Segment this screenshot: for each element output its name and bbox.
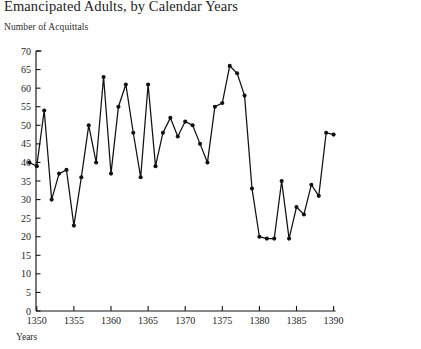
- data-point: [168, 116, 172, 120]
- line-chart-svg: 0510152025303540455055606570 13501355136…: [0, 0, 421, 349]
- x-axis-title: Years: [16, 332, 37, 342]
- data-point: [124, 82, 128, 86]
- series-polyline: [29, 66, 333, 239]
- data-point: [205, 160, 209, 164]
- data-point: [191, 123, 195, 127]
- data-point: [317, 194, 321, 198]
- y-tick-label: 20: [21, 231, 31, 242]
- data-point: [94, 160, 98, 164]
- data-point: [87, 123, 91, 127]
- chart-page: Emancipated Adults, by Calendar Years Nu…: [0, 0, 421, 349]
- data-series: [27, 64, 335, 241]
- y-tick-label: 65: [21, 64, 31, 75]
- y-tick-label: 45: [21, 138, 31, 149]
- data-point: [27, 160, 31, 164]
- y-tick-label: 10: [21, 268, 31, 279]
- y-tick-label: 70: [21, 46, 31, 57]
- data-point: [302, 212, 306, 216]
- data-point: [42, 108, 46, 112]
- data-point: [139, 175, 143, 179]
- x-tick-label: 1355: [64, 315, 84, 326]
- x-tick-label: 1385: [287, 315, 307, 326]
- data-point: [280, 179, 284, 183]
- data-point: [161, 131, 165, 135]
- y-tick-label: 50: [21, 120, 31, 131]
- data-point: [183, 120, 187, 124]
- x-tick-label: 1360: [101, 315, 121, 326]
- data-point: [146, 82, 150, 86]
- y-tick-label: 60: [21, 83, 31, 94]
- data-point: [228, 64, 232, 68]
- data-point: [213, 105, 217, 109]
- data-point: [243, 94, 247, 98]
- data-point: [153, 164, 157, 168]
- plot-area: 0510152025303540455055606570 13501355136…: [0, 0, 421, 349]
- x-tick-label: 1370: [175, 315, 195, 326]
- data-point: [131, 131, 135, 135]
- data-point: [287, 237, 291, 241]
- x-tick-label: 1365: [138, 315, 158, 326]
- y-tick-label: 5: [26, 287, 31, 298]
- data-point: [102, 75, 106, 79]
- x-tick-label: 1375: [212, 315, 232, 326]
- data-point: [309, 183, 313, 187]
- data-point: [235, 71, 239, 75]
- data-point: [257, 235, 261, 239]
- data-point: [272, 237, 276, 241]
- y-tick-label: 30: [21, 194, 31, 205]
- data-point: [109, 172, 113, 176]
- data-point: [176, 134, 180, 138]
- data-point: [116, 105, 120, 109]
- y-tick-label: 55: [21, 101, 31, 112]
- data-point: [220, 101, 224, 105]
- y-tick-label: 35: [21, 176, 31, 187]
- data-point: [198, 142, 202, 146]
- y-tick-label: 25: [21, 213, 31, 224]
- data-point: [57, 172, 61, 176]
- data-point: [50, 198, 54, 202]
- data-point: [265, 237, 269, 241]
- x-tick-label: 1350: [27, 315, 47, 326]
- data-point: [64, 168, 68, 172]
- data-point: [324, 131, 328, 135]
- data-point: [332, 133, 336, 137]
- y-tick-label: 15: [21, 250, 31, 261]
- data-point: [72, 224, 76, 228]
- x-tick-label: 1380: [249, 315, 269, 326]
- data-point: [250, 186, 254, 190]
- x-tick-label: 1390: [324, 315, 344, 326]
- y-axis: 0510152025303540455055606570: [21, 46, 42, 317]
- data-point: [35, 164, 39, 168]
- data-point: [79, 175, 83, 179]
- data-point: [294, 205, 298, 209]
- x-axis: 135013551360136513701375138013851390: [27, 306, 344, 326]
